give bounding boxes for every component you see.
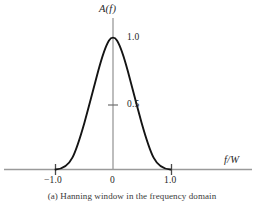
y-axis-title: A(f) [99,4,116,15]
x-axis-title: f/W [224,155,239,166]
hanning-window-figure: A(f) f/W 1.0 0.5 −1.0 0 1.0 (a) Hanning … [0,0,264,203]
figure-caption: (a) Hanning window in the frequency doma… [0,191,264,203]
x-tick-label-negative-1-0: −1.0 [44,176,62,186]
x-tick-label-1-0: 1.0 [164,176,176,186]
x-tick-label-0: 0 [110,176,115,186]
y-tick-label-1-0: 1.0 [127,33,139,43]
y-tick-label-0-5: 0.5 [127,100,139,110]
